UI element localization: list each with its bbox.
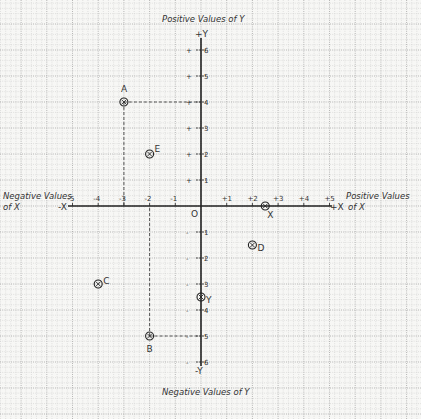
y-tick-label: 1 (204, 229, 208, 237)
left-title-line1: Negative Values (3, 191, 72, 201)
plus-x-label: +X (330, 202, 344, 212)
point-x: X (261, 202, 273, 220)
y-tick-sign: - (186, 359, 189, 367)
y-tick-sign: - (186, 333, 189, 341)
right-title-line1: Positive Values (346, 191, 410, 201)
point-label: X (267, 210, 273, 220)
y-tick-sign: - (186, 307, 189, 315)
point-c: C (94, 276, 109, 288)
y-tick-label: 1 (204, 177, 208, 185)
y-tick-sign: + (186, 177, 192, 185)
point-label: D (257, 243, 264, 253)
axes (68, 38, 332, 366)
y-tick-label: 3 (204, 281, 208, 289)
graph-paper: -5-4-3-2-1+1+2+3+4+56+5+4+3+2+1+1-2-3-4-… (0, 0, 421, 419)
y-tick-label: 6 (204, 47, 209, 55)
y-tick-sign: + (186, 73, 192, 81)
bottom-title: Negative Values of Y (162, 387, 250, 397)
x-tick-label: -3 (119, 195, 126, 203)
point-label: A (121, 84, 128, 94)
right-title-line2: of X (348, 202, 365, 212)
x-tick-label: +2 (247, 195, 257, 203)
y-tick-label: 6 (204, 359, 209, 367)
top-title: Positive Values of Y (162, 14, 245, 24)
y-tick-label: 2 (204, 255, 208, 263)
point-d: D (248, 241, 264, 253)
y-tick-sign: + (186, 125, 192, 133)
projection-lines (124, 102, 201, 336)
y-tick-label: 2 (204, 151, 208, 159)
left-title-line2: of X (3, 202, 20, 212)
x-tick-label: +1 (222, 195, 232, 203)
x-tick-label: -1 (170, 195, 177, 203)
point-label: B (147, 344, 153, 354)
y-tick-label: 4 (204, 307, 209, 315)
x-tick-label: -2 (145, 195, 152, 203)
y-tick-label: 4 (204, 99, 209, 107)
y-tick-sign: + (186, 47, 192, 55)
y-tick-label: 5 (204, 333, 208, 341)
x-tick-label: +3 (273, 195, 283, 203)
y-tick-label: 3 (204, 125, 208, 133)
point-label: Y (205, 295, 212, 305)
y-tick-sign: - (186, 281, 189, 289)
y-tick-label: 5 (204, 73, 208, 81)
y-tick-sign: + (186, 99, 192, 107)
origin-label: O (191, 209, 198, 219)
x-tick-label: -4 (93, 195, 101, 203)
minus-x-label: -X (58, 202, 67, 212)
plus-y-label: +Y (195, 29, 209, 39)
point-label: C (103, 276, 109, 286)
point-label: E (155, 144, 161, 154)
x-tick-label: +4 (299, 195, 310, 203)
y-tick-sign: - (186, 229, 189, 237)
point-y: Y (197, 293, 212, 305)
minus-y-label: -Y (195, 366, 203, 376)
plotted-points: ABCDEXY (94, 84, 273, 354)
y-tick-sign: - (186, 255, 189, 263)
y-tick-sign: + (186, 151, 192, 159)
point-e: E (146, 144, 161, 158)
coordinate-plane: -5-4-3-2-1+1+2+3+4+56+5+4+3+2+1+1-2-3-4-… (0, 0, 421, 419)
